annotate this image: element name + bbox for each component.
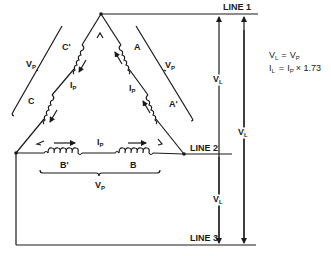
coil-label-c: C <box>28 96 35 106</box>
corner-arrow-top <box>97 33 103 38</box>
bottom-wire-right <box>153 153 184 154</box>
junction-right <box>182 152 186 156</box>
current-arrow-c <box>50 110 57 122</box>
right-wire-bottom <box>156 119 184 154</box>
corner-arrow-right <box>158 139 162 145</box>
coil-label-b: B <box>130 160 137 170</box>
coil-label-a: A <box>134 42 141 52</box>
vp-label-left: VP <box>26 59 36 70</box>
bottom-wire-left <box>16 152 48 154</box>
coil-c <box>43 95 54 124</box>
line-1-label: LINE 1 <box>223 2 251 12</box>
ip-label-left: IP <box>70 80 77 91</box>
coil-b <box>119 148 153 155</box>
coil-label-b-prime: B' <box>60 160 69 170</box>
equation-voltage: VL=VP <box>269 50 300 61</box>
corner-arrow-left <box>37 141 44 145</box>
left-wire-bottom <box>16 119 44 153</box>
vp-brace-right <box>136 26 193 121</box>
current-arrow-c-prime <box>79 60 86 72</box>
coil-label-a-prime: A' <box>169 99 178 109</box>
equation-current: IL=IP× 1.73 <box>269 63 321 74</box>
ip-label-right: IP <box>129 83 136 94</box>
vp-brace-right-tick <box>164 70 166 71</box>
left-wire-top <box>82 14 101 45</box>
vl-label-1-2: VL <box>213 74 223 85</box>
coil-b-prime <box>48 148 82 155</box>
vp-label-bottom: VP <box>95 180 105 191</box>
bottom-wire-mid <box>82 152 119 154</box>
right-wire-top <box>101 14 121 45</box>
delta-diagram: LINE 1 LINE 2 LINE 3 C' C A A' B' B VP V… <box>0 0 331 256</box>
junction-top <box>99 12 103 16</box>
junction-left <box>14 151 18 155</box>
coil-label-c-prime: C' <box>62 42 71 52</box>
vl-label-2-3: VL <box>213 194 223 205</box>
vl-label-1-3: VL <box>238 127 248 138</box>
ip-label-bottom: IP <box>97 137 104 148</box>
current-arrow-a-prime <box>143 101 150 113</box>
vp-brace-bottom <box>40 170 160 176</box>
current-arrow-a <box>115 52 122 64</box>
coil-c-prime <box>73 45 84 74</box>
vp-label-right: VP <box>165 60 175 71</box>
line-3-label: LINE 3 <box>190 233 218 243</box>
diagram-canvas: LINE 1 LINE 2 LINE 3 C' C A A' B' B VP V… <box>0 0 331 256</box>
coil-a <box>119 45 130 74</box>
line-2-label: LINE 2 <box>190 143 218 153</box>
